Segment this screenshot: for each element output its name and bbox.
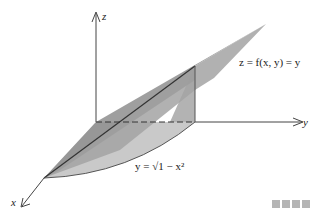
footer-dot [292, 200, 300, 208]
footer-dot [282, 200, 290, 208]
x-axis [22, 178, 44, 206]
footer-dot [272, 200, 280, 208]
curve-equation-label: y = √1 − x² [135, 160, 184, 172]
surface-equation-label: z = f(x, y) = y [239, 56, 300, 68]
surface-diagram: z y x z = f(x, y) = y y = √1 − x² [0, 0, 312, 217]
footer-dot [302, 200, 310, 208]
x-axis-label: x [11, 196, 16, 208]
surface-plane-front [44, 24, 266, 178]
diagram-canvas [0, 0, 312, 217]
y-axis-label: y [303, 116, 308, 128]
footer-dots [272, 200, 310, 208]
z-axis-label: z [102, 10, 106, 22]
